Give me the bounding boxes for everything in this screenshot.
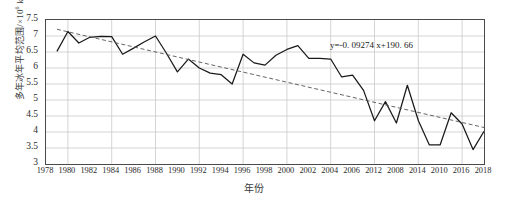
- x-tick-label: 2018: [475, 166, 492, 175]
- x-tick-label: 2010: [431, 166, 448, 175]
- x-tick-label: 1984: [102, 166, 119, 175]
- chart-figure: 多年冰年平均范围/×106 km2 7.576.565.554.543.53 y…: [0, 0, 508, 200]
- x-tick-label: 2000: [278, 166, 295, 175]
- x-tick-label: 1980: [59, 166, 76, 175]
- x-axis-title-text: 年份: [244, 183, 264, 194]
- y-tick-label: 6: [0, 62, 38, 72]
- x-tick-label: 1988: [146, 166, 163, 175]
- x-tick-label: 1978: [37, 166, 54, 175]
- x-tick-label: 2006: [343, 166, 360, 175]
- x-tick-label: 1986: [124, 166, 141, 175]
- x-axis-tick-labels: 1978198019821984198619881990199219941996…: [0, 166, 508, 180]
- y-tick-label: 7: [0, 30, 38, 40]
- x-tick-label: 2016: [453, 166, 470, 175]
- x-tick-label: 2012: [365, 166, 382, 175]
- data-series-layer: [57, 29, 484, 149]
- y-tick-label: 6.5: [0, 46, 38, 56]
- trendline-equation-annotation: y=-0. 09274 x+190. 66: [330, 40, 413, 50]
- y-tick-label: 4: [0, 126, 38, 136]
- x-tick-label: 1992: [190, 166, 207, 175]
- x-tick-label: 2002: [299, 166, 316, 175]
- x-tick-label: 2014: [409, 166, 426, 175]
- y-tick-label: 5: [0, 94, 38, 104]
- x-tick-label: 2008: [387, 166, 404, 175]
- trendline-series: [57, 29, 484, 127]
- y-tick-label: 7.5: [0, 14, 38, 24]
- x-tick-label: 1996: [234, 166, 251, 175]
- x-tick-label: 1994: [212, 166, 229, 175]
- plot-svg: [46, 20, 484, 164]
- y-tick-label: 5.5: [0, 78, 38, 88]
- x-tick-label: 1990: [168, 166, 185, 175]
- plot-area: [45, 19, 485, 165]
- equation-text: y=-0. 09274 x+190. 66: [330, 40, 413, 50]
- y-tick-label: 4.5: [0, 110, 38, 120]
- x-tick-label: 2004: [321, 166, 338, 175]
- x-tick-label: 1998: [256, 166, 273, 175]
- x-axis-title: 年份: [0, 180, 508, 195]
- x-tick-label: 1982: [80, 166, 97, 175]
- y-tick-label: 3.5: [0, 142, 38, 152]
